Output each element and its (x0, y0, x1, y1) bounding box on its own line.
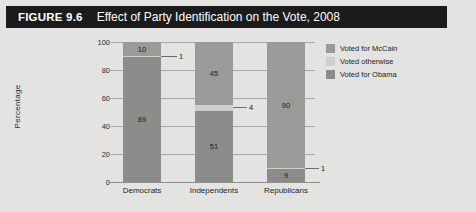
bar-republicans-callout-line-otherwise (305, 168, 319, 169)
tickmark-100 (108, 42, 113, 43)
y-tick-20: 20 (88, 150, 110, 159)
y-axis-tick-labels: 100 80 60 40 20 0 (86, 42, 110, 182)
figure-container: FIGURE 9.6 Effect of Party Identificatio… (0, 0, 476, 212)
x-axis-line (108, 182, 320, 183)
bar-independents-value-mccain: 45 (210, 69, 218, 78)
legend-item-mccain[interactable]: Voted for McCain (326, 44, 446, 53)
y-tick-40: 40 (88, 122, 110, 131)
tickmark-40 (108, 126, 113, 127)
bar-republicans-value-mccain: 90 (282, 101, 290, 110)
x-tick-republicans: Republicans (246, 186, 326, 195)
chart-plot-wrapper: Percentage 100 80 60 40 20 0 10 (0, 28, 476, 212)
y-tick-100: 100 (88, 38, 110, 47)
tickmark-20 (108, 154, 113, 155)
bar-republicans-value-obama: 9 (284, 171, 288, 180)
chart-plot-area: 10 89 1 45 51 4 (113, 42, 315, 182)
bar-republicans-value-otherwise: 1 (321, 164, 325, 173)
bar-democrats[interactable]: 10 89 1 (123, 42, 161, 182)
bar-independents-value-obama: 51 (210, 142, 218, 151)
y-axis-title: Percentage (13, 62, 22, 152)
bar-democrats-value-obama: 89 (138, 115, 146, 124)
x-tick-democrats: Democrats (102, 186, 182, 195)
bar-independents-callout-line-otherwise (233, 107, 247, 108)
bar-independents-segment-obama[interactable]: 51 (195, 111, 233, 182)
y-tick-60: 60 (88, 94, 110, 103)
y-tick-80: 80 (88, 66, 110, 75)
figure-title: Effect of Party Identification on the Vo… (97, 10, 340, 24)
bar-republicans[interactable]: 90 9 1 (267, 42, 305, 182)
tickmark-60 (108, 98, 113, 99)
bar-democrats-value-mccain: 10 (138, 45, 146, 54)
bar-independents[interactable]: 45 51 4 (195, 42, 233, 182)
legend-item-obama[interactable]: Voted for Obama (326, 70, 446, 79)
legend-swatch-obama-icon (326, 70, 335, 79)
bar-democrats-value-otherwise: 1 (179, 52, 183, 61)
legend-item-otherwise[interactable]: Voted otherwise (326, 57, 446, 66)
legend-label-mccain: Voted for McCain (340, 44, 398, 53)
bar-independents-value-otherwise: 4 (249, 103, 253, 112)
legend-swatch-otherwise-icon (326, 57, 335, 66)
chart-legend: Voted for McCain Voted otherwise Voted f… (326, 44, 446, 83)
bar-democrats-segment-mccain[interactable]: 10 (123, 42, 161, 56)
bar-republicans-segment-mccain[interactable]: 90 (267, 42, 305, 168)
legend-label-obama: Voted for Obama (340, 70, 397, 79)
bar-democrats-callout-line-otherwise (161, 56, 177, 57)
figure-title-bar: FIGURE 9.6 Effect of Party Identificatio… (6, 6, 447, 28)
legend-swatch-mccain-icon (326, 44, 335, 53)
figure-number: FIGURE 9.6 (18, 11, 83, 23)
bar-republicans-segment-obama[interactable]: 9 (267, 169, 305, 182)
bar-independents-segment-mccain[interactable]: 45 (195, 42, 233, 105)
bar-democrats-segment-obama[interactable]: 89 (123, 57, 161, 182)
x-tick-independents: Independents (174, 186, 254, 195)
legend-label-otherwise: Voted otherwise (340, 57, 393, 66)
tickmark-80 (108, 70, 113, 71)
